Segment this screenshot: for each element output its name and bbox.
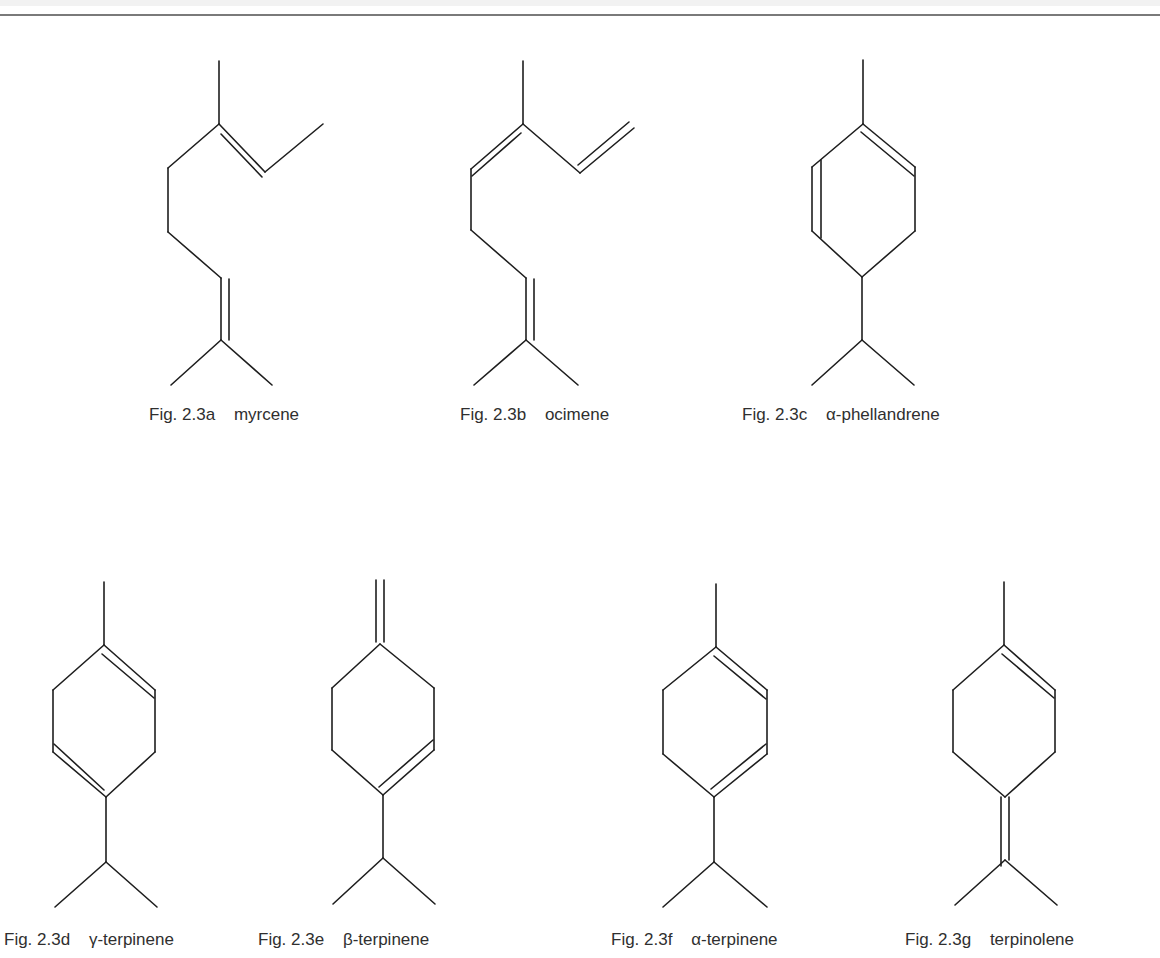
caption-alpha-phellandrene: Fig. 2.3c α-phellandrene — [742, 405, 940, 425]
figure-number: Fig. 2.3c — [742, 405, 807, 424]
caption-terpinolene: Fig. 2.3g terpinolene — [905, 930, 1074, 950]
structure-ocimene — [471, 61, 634, 385]
caption-alpha-terpinene: Fig. 2.3f α-terpinene — [611, 930, 778, 950]
compound-name: β-terpinene — [343, 930, 429, 949]
caption-beta-terpinene: Fig. 2.3e β-terpinene — [258, 930, 429, 950]
compound-name: ocimene — [545, 405, 609, 424]
caption-myrcene: Fig. 2.3a myrcene — [149, 405, 299, 425]
structure-myrcene — [168, 61, 323, 385]
compound-name: terpinolene — [990, 930, 1074, 949]
structure-diagrams — [0, 0, 1160, 958]
caption-ocimene: Fig. 2.3b ocimene — [460, 405, 609, 425]
compound-name: α-terpinene — [691, 930, 777, 949]
figure-number: Fig. 2.3d — [4, 930, 70, 949]
figure-number: Fig. 2.3e — [258, 930, 324, 949]
figure-number: Fig. 2.3f — [611, 930, 672, 949]
structure-beta-terpinene — [332, 580, 435, 904]
figure-number: Fig. 2.3b — [460, 405, 526, 424]
structure-terpinolene — [953, 582, 1057, 905]
compound-name: γ-terpinene — [89, 930, 174, 949]
structure-alpha-phellandrene — [812, 60, 915, 385]
compound-name: myrcene — [234, 405, 299, 424]
structure-alpha-terpinene — [663, 584, 767, 907]
caption-gamma-terpinene: Fig. 2.3d γ-terpinene — [4, 930, 174, 950]
structure-gamma-terpinene — [53, 582, 157, 907]
compound-name: α-phellandrene — [826, 405, 940, 424]
figure-number: Fig. 2.3a — [149, 405, 215, 424]
figure-number: Fig. 2.3g — [905, 930, 971, 949]
